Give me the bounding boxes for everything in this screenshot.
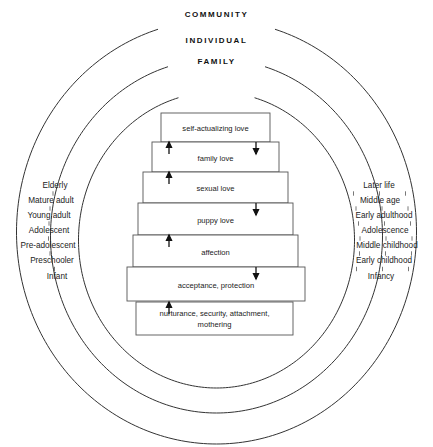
ring-label-family: FAMILY (197, 57, 235, 66)
ring-label-individual: INDIVIDUAL (186, 36, 248, 45)
stage-left-pre-adolescent: Pre-adolescent (20, 242, 75, 250)
stage-left-infant: Infant (47, 273, 68, 281)
stage-left-mature-adult: Mature adult (28, 197, 74, 205)
stage-right-early-adulthood: Early adulthood (356, 212, 413, 220)
stage-left-preschooler: Preschooler (30, 257, 74, 265)
pyramid-box-2 (143, 172, 288, 203)
stage-left-young-adult: Young adult (28, 212, 71, 220)
stage-right-middle-childhood: Middle childhood (356, 242, 417, 250)
ring-label-community: COMMUNITY (185, 10, 249, 19)
pyramid-box-0 (161, 113, 270, 142)
stage-right-middle-age: Middle age (360, 197, 400, 205)
stage-right-early-childhood: Early childhood (356, 257, 412, 265)
stage-right-adolescence: Adolescence (362, 227, 409, 235)
pyramid-box-5 (127, 267, 305, 301)
pyramid-box-3 (138, 203, 293, 235)
stage-left-elderly: Elderly (42, 182, 67, 190)
stage-left-adolescent: Adolescent (29, 227, 70, 235)
diagram-vector-layer (0, 0, 433, 447)
pyramid-boxes-group (127, 113, 305, 335)
stage-right-infancy: Infancy (368, 273, 394, 281)
pyramid-box-4 (133, 235, 298, 267)
ecological-love-diagram: COMMUNITY INDIVIDUAL FAMILY self-actuali… (0, 0, 433, 447)
pyramid-box-6 (136, 302, 293, 335)
stage-right-later-life: Later life (363, 182, 394, 190)
